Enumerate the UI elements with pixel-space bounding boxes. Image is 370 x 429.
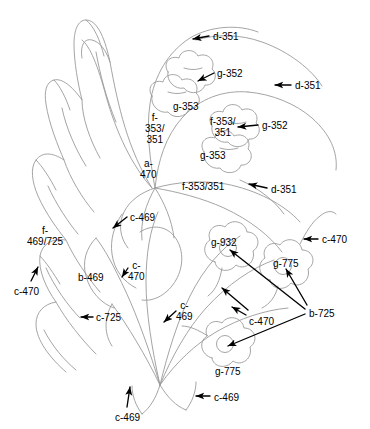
rosette-g775-lower — [182, 318, 255, 367]
annotation-label-c-469: c-469 — [214, 392, 239, 403]
annotation-label-c-469: c- 469 — [176, 300, 193, 322]
ornament-line-drawing — [0, 0, 370, 429]
annotation-label-g-775: g-775 — [273, 258, 299, 269]
annotation-label-d-351: d-351 — [295, 80, 321, 91]
annotation-label-c-469: c-469 — [115, 412, 140, 423]
leaf-outline-group — [32, 20, 336, 414]
annotation-label-c-725: c-725 — [96, 312, 121, 323]
annotation-label-g-353: g-353 — [173, 101, 199, 112]
annotation-label-c-470: c-470 — [249, 316, 274, 327]
annotation-label-c-470: c-470 — [14, 286, 39, 297]
annotation-label-f-353-351: f- 353/ 351 — [145, 112, 164, 145]
annotation-label-g-932: g-932 — [211, 237, 237, 248]
annotation-label-f-353-351: f-353/ 351 — [210, 116, 236, 138]
figure-canvas: d-351g-352d-351g-353f- 353/ 351f-353/ 35… — [0, 0, 370, 429]
rosette-g932 — [205, 222, 258, 296]
rosette-middle — [202, 105, 259, 173]
annotation-label-g-775: g-775 — [215, 366, 241, 377]
annotation-label-g-352: g-352 — [262, 120, 288, 131]
annotation-label-a-470: a- 470 — [140, 158, 157, 180]
annotation-label-f-353-351: f-353/351 — [182, 181, 224, 192]
annotation-label-c-469: c-469 — [130, 212, 155, 223]
annotation-label-g-353: g-353 — [200, 150, 226, 161]
annotation-label-g-352: g-352 — [217, 68, 243, 79]
annotation-label-c-470: c- 470 — [128, 260, 145, 282]
annotation-label-c-470: c-470 — [322, 234, 347, 245]
annotation-arrows — [31, 36, 318, 407]
annotation-label-b-469: b-469 — [78, 272, 104, 283]
annotation-label-f-469-725: f- 469/725 — [27, 225, 63, 247]
annotation-label-d-351: d-351 — [213, 31, 239, 42]
annotation-label-b-725: b-725 — [309, 308, 335, 319]
annotation-label-d-351: d-351 — [271, 184, 297, 195]
